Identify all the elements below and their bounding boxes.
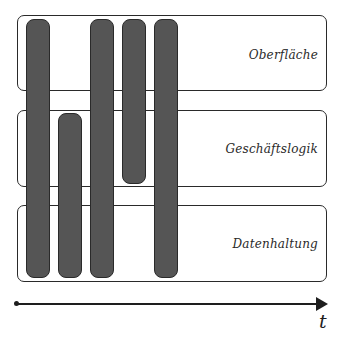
layer-label-datenhaltung: Datenhaltung	[232, 237, 318, 251]
time-axis-line	[16, 303, 318, 305]
layer-label-oberflaeche: Oberfläche	[249, 48, 318, 62]
arrow-right-icon	[316, 297, 328, 311]
activity-bar-2	[58, 113, 82, 278]
activity-bar-3	[90, 19, 114, 278]
layer-label-geschaeftslogik: Geschäftslogik	[225, 142, 318, 156]
activity-bar-5	[154, 19, 178, 278]
activity-bar-1	[26, 19, 50, 278]
time-axis-label: t	[319, 310, 327, 332]
activity-bar-4	[122, 19, 146, 184]
